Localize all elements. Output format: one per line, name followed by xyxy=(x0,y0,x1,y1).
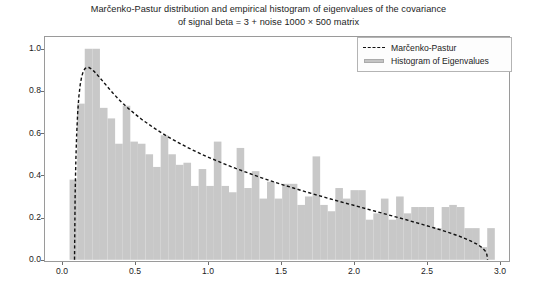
histogram-bar xyxy=(108,118,116,259)
y-tick-mark xyxy=(41,91,44,92)
y-tick-label: 0.8 xyxy=(5,85,41,95)
x-tick-mark xyxy=(427,262,428,265)
y-tick-label: 1.0 xyxy=(5,43,41,53)
x-tick-mark xyxy=(208,262,209,265)
histogram-bar xyxy=(426,207,434,260)
chart-figure: Marčenko-Pastur distribution and empiric… xyxy=(0,0,537,284)
x-tick-label: 3.0 xyxy=(480,266,520,276)
histogram-bar xyxy=(282,184,290,260)
x-tick-mark xyxy=(354,262,355,265)
histogram-bar xyxy=(199,169,207,260)
histogram-bar xyxy=(176,165,184,260)
x-tick-label: 0.5 xyxy=(115,266,155,276)
histogram-bar xyxy=(351,190,359,260)
y-tick-mark xyxy=(41,175,44,176)
histogram-bar xyxy=(275,199,283,260)
y-tick-label: 0.4 xyxy=(5,170,41,180)
histogram-bar xyxy=(123,106,131,260)
histogram-bar xyxy=(244,188,252,260)
y-tick: 0.2 xyxy=(0,212,41,222)
histogram-bar xyxy=(449,205,457,260)
histogram-bars xyxy=(70,49,495,260)
histogram-bar xyxy=(320,205,328,260)
histogram-bar xyxy=(328,211,336,260)
histogram-bar xyxy=(191,186,199,260)
y-tick-mark xyxy=(41,49,44,50)
y-tick-mark xyxy=(41,133,44,134)
chart-legend: Marčenko-Pastur Histogram of Eigenvalues xyxy=(357,37,512,72)
histogram-bar xyxy=(267,182,275,260)
histogram-bar xyxy=(487,228,495,260)
x-tick-mark xyxy=(281,262,282,265)
x-tick-label: 1.5 xyxy=(261,266,301,276)
histogram-bar xyxy=(259,199,267,260)
histogram-bar xyxy=(221,186,229,260)
histogram-bar xyxy=(290,184,298,260)
bar-patch-icon xyxy=(363,55,385,66)
x-tick-label: 2.5 xyxy=(407,266,447,276)
histogram-bar xyxy=(138,144,146,260)
histogram-bar xyxy=(366,220,374,260)
y-tick-label: 0.6 xyxy=(5,128,41,138)
legend-item-marcenko-pastur: Marčenko-Pastur xyxy=(363,41,506,54)
legend-item-histogram: Histogram of Eigenvalues xyxy=(363,54,506,67)
x-tick-mark xyxy=(62,262,63,265)
histogram-bar xyxy=(396,196,404,259)
histogram-bar xyxy=(183,163,191,260)
y-tick: 0.6 xyxy=(0,128,41,138)
histogram-bar xyxy=(434,228,442,260)
y-tick: 0.8 xyxy=(0,85,41,95)
histogram-bar xyxy=(358,190,366,260)
x-tick-mark xyxy=(500,262,501,265)
histogram-bar xyxy=(153,167,161,260)
histogram-bar xyxy=(411,207,419,260)
histogram-bar xyxy=(130,142,138,260)
chart-title-line-1: Marčenko-Pastur distribution and empiric… xyxy=(0,3,537,16)
y-tick: 0.4 xyxy=(0,170,41,180)
legend-label-histogram: Histogram of Eigenvalues xyxy=(391,56,489,66)
y-tick-label: 0.0 xyxy=(5,254,41,264)
histogram-bar xyxy=(115,144,123,260)
histogram-bar xyxy=(297,205,305,260)
histogram-bar xyxy=(335,188,343,260)
y-tick: 0.0 xyxy=(0,254,41,264)
x-tick-label: 2.0 xyxy=(334,266,374,276)
dashed-line-icon xyxy=(363,42,385,53)
y-tick-label: 0.2 xyxy=(5,212,41,222)
histogram-bar xyxy=(464,228,472,260)
histogram-bar xyxy=(305,196,313,259)
histogram-bar xyxy=(229,192,237,260)
histogram-bar xyxy=(77,104,85,260)
histogram-bar xyxy=(457,207,465,260)
histogram-bar xyxy=(92,49,100,260)
histogram-bar xyxy=(237,148,245,260)
histogram-bar xyxy=(85,49,93,260)
histogram-bar xyxy=(145,154,153,260)
y-tick-mark xyxy=(41,218,44,219)
histogram-bar xyxy=(168,154,176,260)
histogram-bar xyxy=(70,180,78,260)
histogram-bar xyxy=(381,199,389,260)
chart-title-line-2: of signal beta = 3 + noise 1000 × 500 ma… xyxy=(0,16,537,29)
legend-label-marcenko-pastur: Marčenko-Pastur xyxy=(391,43,456,53)
x-tick-label: 0.0 xyxy=(42,266,82,276)
x-tick-label: 1.0 xyxy=(188,266,228,276)
y-tick: 1.0 xyxy=(0,43,41,53)
histogram-bar xyxy=(161,135,169,260)
histogram-bar xyxy=(313,156,321,259)
chart-title: Marčenko-Pastur distribution and empiric… xyxy=(0,3,537,28)
histogram-bar xyxy=(442,207,450,260)
histogram-bar xyxy=(206,186,214,260)
histogram-bar xyxy=(389,220,397,260)
histogram-bar xyxy=(343,199,351,260)
histogram-bar xyxy=(419,207,427,260)
y-tick-mark xyxy=(41,260,44,261)
histogram-bar xyxy=(252,171,260,260)
histogram-bar xyxy=(373,213,381,259)
histogram-bar xyxy=(100,108,108,260)
x-tick-mark xyxy=(135,262,136,265)
